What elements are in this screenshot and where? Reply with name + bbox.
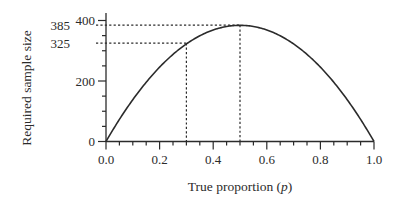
reference-value-label: 385 bbox=[51, 18, 71, 33]
x-tick-label: 0.2 bbox=[151, 152, 167, 167]
reference-labels: 385325 bbox=[51, 18, 71, 51]
x-tick-label: 0.4 bbox=[205, 152, 222, 167]
x-tick-label: 0.8 bbox=[312, 152, 328, 167]
x-tick-label: 0.0 bbox=[98, 152, 114, 167]
reference-value-label: 325 bbox=[51, 36, 71, 51]
y-axis: 0200400 bbox=[76, 13, 107, 149]
x-tick-label: 0.6 bbox=[259, 152, 276, 167]
x-tick-label: 1.0 bbox=[366, 152, 382, 167]
y-axis-label: Required sample size bbox=[19, 30, 34, 145]
x-axis-label: True proportion (p) bbox=[188, 179, 293, 194]
y-tick-label: 400 bbox=[76, 13, 96, 28]
sample-size-chart: 0200400 0.00.20.40.60.81.0 385325 Requir… bbox=[0, 0, 399, 207]
x-axis: 0.00.20.40.60.81.0 bbox=[98, 142, 382, 168]
y-tick-label: 0 bbox=[89, 134, 96, 149]
reference-lines bbox=[96, 25, 240, 141]
y-tick-label: 200 bbox=[76, 74, 96, 89]
